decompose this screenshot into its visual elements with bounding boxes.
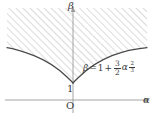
- exponent-denominator: 3: [129, 67, 135, 74]
- equation-plus: +: [104, 63, 112, 73]
- exponent-fraction: 2 3: [129, 61, 135, 73]
- equation-exponent: 2 3: [128, 61, 136, 73]
- x-axis: [5, 98, 150, 102]
- origin-label: O: [66, 101, 74, 111]
- equation-term-one: 1: [98, 63, 104, 73]
- equation-coefficient-fraction: 3 2: [114, 60, 121, 76]
- y-axis-tick-label-one: 1: [67, 84, 73, 94]
- equation-equals: =: [89, 63, 97, 73]
- curve-equation-annotation: β = 1 + 3 2 α 2 3: [83, 60, 136, 76]
- equation-variable: α: [122, 62, 128, 72]
- coefficient-numerator: 3: [114, 60, 121, 68]
- y-axis-label: β: [68, 1, 74, 11]
- figure-container: β α O 1 β = 1 + 3 2 α 2 3: [0, 0, 154, 120]
- coefficient-denominator: 2: [114, 68, 121, 77]
- equation-power-term: α 2 3: [122, 62, 136, 74]
- x-axis-label: α: [143, 95, 150, 105]
- equation-lhs: β: [83, 63, 88, 73]
